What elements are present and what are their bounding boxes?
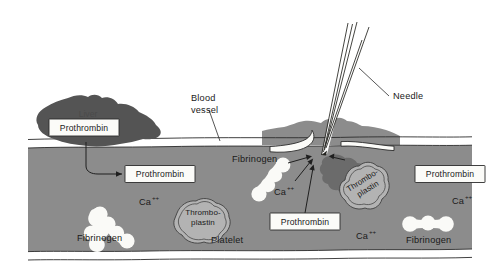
prothrombin-liver-box[interactable]: Prothrombin [49, 119, 119, 136]
prothrombin-vessel-left-box[interactable]: Prothrombin [125, 166, 195, 183]
prothrombin-wound-box[interactable]: Prothrombin [270, 213, 340, 230]
thromboplastin-left-label-line1: Thrombo- [185, 208, 221, 217]
liver-label: Liver [79, 109, 98, 119]
calcium-middle-label: Ca [274, 187, 287, 197]
fibrinogen-middle-label: Fibrinogen [232, 154, 277, 164]
calcium-right-charge: ++ [465, 193, 473, 200]
vessel-wall-bottom-outer [28, 257, 472, 260]
thromboplastin-left-label-line2: plastin [191, 218, 215, 227]
fibrinogen-molecule-right [402, 216, 454, 232]
calcium-middle-charge: ++ [287, 184, 295, 191]
fibrinogen-right-label: Fibrinogen [406, 235, 451, 245]
prothrombin-right-box[interactable]: Prothrombin [415, 166, 485, 183]
blood-clotting-diagram: Prothrombin Prothrombin Prothrombin Prot… [0, 0, 500, 275]
prothrombin-right-label: Prothrombin [426, 169, 475, 179]
fibrinogen-left-label: Fibrinogen [77, 233, 122, 243]
blood-vessel-label-line2: vessel [191, 105, 218, 115]
calcium-left-label: Ca [139, 197, 152, 207]
prothrombin-liver-label: Prothrombin [60, 123, 109, 133]
needle-label: Needle [393, 91, 423, 101]
prothrombin-wound-label: Prothrombin [281, 217, 330, 227]
blood-vessel-label-line1: Blood [191, 93, 216, 103]
leader-needle [359, 68, 389, 96]
calcium-lower-middle-label: Ca [356, 231, 369, 241]
diagram-canvas: Prothrombin Prothrombin Prothrombin Prot… [0, 0, 500, 275]
calcium-lower-middle-charge: ++ [369, 228, 377, 235]
prothrombin-vessel-left-label: Prothrombin [136, 169, 185, 179]
calcium-right-label: Ca [452, 196, 465, 206]
platelet-label: Platelet [211, 235, 243, 245]
calcium-left-charge: ++ [152, 194, 160, 201]
